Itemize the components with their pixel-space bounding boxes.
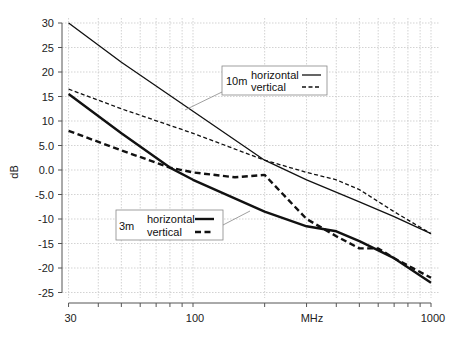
y-tick-label: -15 <box>38 238 54 250</box>
axes: 30252015105.00.0-5.0-10-15-20-25dB301001… <box>8 17 445 324</box>
legend-leader-line <box>223 211 250 225</box>
y-tick-label: 5.0 <box>39 140 54 152</box>
y-tick-label: 25 <box>42 42 54 54</box>
y-tick-label: -20 <box>38 262 54 274</box>
legend-entry: horizontal <box>147 213 195 225</box>
legend-entry: vertical <box>251 81 286 93</box>
y-tick-label: 0.0 <box>39 164 54 176</box>
emission-chart: 30252015105.00.0-5.0-10-15-20-25dB301001… <box>0 0 458 339</box>
y-tick-label: 20 <box>42 66 54 78</box>
x-tick-label: 30 <box>64 312 76 324</box>
legend-entry: horizontal <box>251 69 299 81</box>
series-line <box>69 94 431 283</box>
series-line <box>69 23 431 234</box>
x-axis-label: MHz <box>301 312 324 324</box>
y-tick-label: -10 <box>38 213 54 225</box>
y-tick-label: -25 <box>38 287 54 299</box>
y-tick-label: -5.0 <box>35 189 54 201</box>
y-axis-label: dB <box>8 165 20 178</box>
x-tick-label: 100 <box>186 312 204 324</box>
legend-entry: vertical <box>147 226 182 238</box>
y-tick-label: 30 <box>42 17 54 29</box>
legend-title: 10m <box>226 75 247 87</box>
legend-title: 3m <box>119 220 134 232</box>
x-tick-label: 1000 <box>421 312 445 324</box>
y-tick-label: 15 <box>42 91 54 103</box>
legend-leader-line <box>185 92 222 110</box>
y-tick-label: 10 <box>42 115 54 127</box>
